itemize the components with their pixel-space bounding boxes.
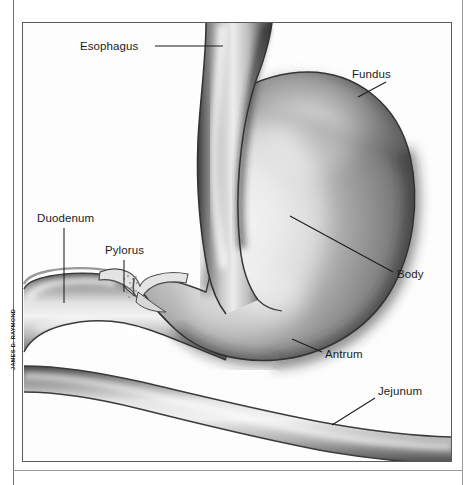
stomach-illustration-artwork: [0, 0, 473, 485]
stomach-body-shape: [140, 72, 415, 361]
label-antrum: Antrum: [325, 348, 363, 360]
label-jejunum: Jejunum: [378, 385, 422, 397]
jejunum-shape: [24, 366, 452, 464]
stomach-anatomy-figure: Esophagus Fundus Duodenum Pylorus Body A…: [0, 0, 473, 485]
label-body: Body: [397, 268, 424, 280]
label-pylorus: Pylorus: [105, 244, 144, 256]
label-esophagus: Esophagus: [80, 40, 138, 52]
jejunum-leader: [332, 398, 375, 425]
artist-credit: JAMES D. RAYMOND: [10, 309, 16, 370]
label-fundus: Fundus: [352, 68, 391, 80]
label-duodenum: Duodenum: [37, 212, 94, 224]
